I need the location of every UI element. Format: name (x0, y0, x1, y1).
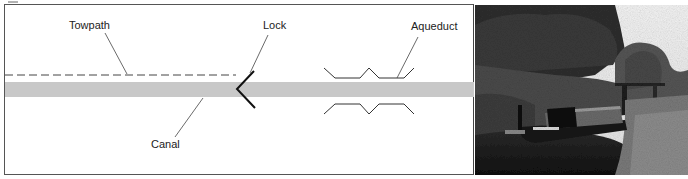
towpath-leader (105, 33, 127, 74)
towpath-label: Towpath (69, 20, 110, 31)
aqueduct-label: Aqueduct (411, 21, 457, 32)
canal-label: Canal (151, 139, 180, 150)
aqueduct-wall-top (324, 68, 414, 78)
lock-label: Lock (263, 20, 286, 31)
canal-lock-photo (475, 5, 688, 175)
canal-leader (175, 98, 203, 137)
aqueduct-wall-bottom (324, 104, 414, 114)
aqueduct-leader (397, 37, 418, 78)
canal-band (5, 82, 474, 97)
photo-illustration (475, 5, 688, 175)
lock-leader (250, 35, 268, 73)
